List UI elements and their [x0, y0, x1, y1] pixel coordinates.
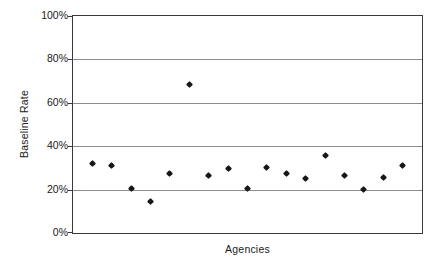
y-tick-mark: [68, 232, 73, 233]
scatter-chart-baseline-rate: Baseline Rate 0%20%40%60%80%100% Agencie…: [0, 0, 442, 267]
y-tick-mark: [68, 190, 73, 191]
data-point: [263, 164, 270, 171]
data-point: [89, 160, 96, 167]
y-tick-mark: [68, 146, 73, 147]
data-point: [380, 174, 387, 181]
gridline-60: [73, 103, 422, 104]
data-point: [166, 170, 173, 177]
x-axis-title: Agencies: [72, 243, 423, 255]
data-point: [147, 198, 154, 205]
data-point: [322, 152, 329, 159]
y-tick-mark: [68, 59, 73, 60]
data-point: [283, 170, 290, 177]
data-point: [108, 162, 115, 169]
y-tick-label: 80%: [20, 52, 68, 64]
y-tick-mark: [68, 16, 73, 17]
data-point: [360, 186, 367, 193]
plot-area: [72, 15, 423, 234]
y-tick-label: 100%: [20, 9, 68, 21]
data-point: [186, 81, 193, 88]
y-tick-label: 20%: [20, 183, 68, 195]
data-point: [399, 162, 406, 169]
y-tick-label: 40%: [20, 139, 68, 151]
y-tick-label: 0%: [20, 226, 68, 238]
data-point: [244, 185, 251, 192]
gridline-40: [73, 146, 422, 147]
y-axis-tick-labels: 0%20%40%60%80%100%: [20, 8, 68, 242]
data-point: [205, 172, 212, 179]
data-point: [302, 175, 309, 182]
y-tick-label: 60%: [20, 96, 68, 108]
data-point: [341, 172, 348, 179]
gridline-80: [73, 59, 422, 60]
data-point: [128, 185, 135, 192]
data-point: [225, 165, 232, 172]
y-tick-mark: [68, 103, 73, 104]
